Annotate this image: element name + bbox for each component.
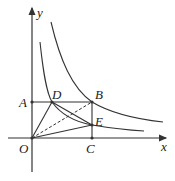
- label-O: O: [19, 142, 28, 155]
- point-A: [30, 100, 33, 103]
- label-x: x: [161, 140, 167, 153]
- point-C: [90, 136, 93, 139]
- point-O: [30, 136, 33, 139]
- segment-OE: [32, 125, 92, 138]
- label-A: A: [19, 96, 27, 109]
- label-E: E: [95, 115, 103, 128]
- segment-OD: [32, 102, 52, 138]
- label-y: y: [37, 6, 43, 19]
- diagram: y x O A D B E C: [0, 0, 175, 181]
- point-B: [90, 100, 93, 103]
- outer-hyperbola: [51, 22, 163, 122]
- label-D: D: [52, 88, 61, 101]
- point-E: [90, 123, 93, 126]
- label-C: C: [86, 142, 95, 155]
- label-B: B: [95, 88, 103, 101]
